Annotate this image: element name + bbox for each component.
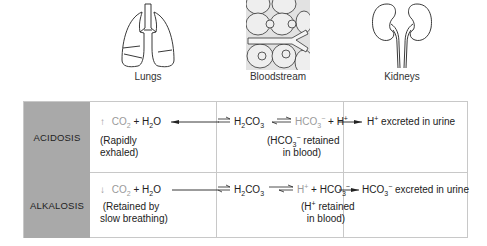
column-divider bbox=[216, 172, 217, 238]
note-text: (H bbox=[301, 201, 312, 212]
equilibrium-arrow-icon bbox=[218, 183, 232, 193]
blood-equation-acidosis: H2CO3 bbox=[234, 116, 264, 128]
note-line: in blood) bbox=[267, 147, 337, 159]
hydrogen-sup: + bbox=[304, 183, 308, 190]
column-divider bbox=[343, 102, 344, 172]
bicarbonate-text: HCO bbox=[295, 116, 317, 127]
table-row-acidosis: ACIDOSIS ↑ CO2 + H2O (Rapidly exhaled) H… bbox=[24, 102, 467, 173]
h2co3-co: CO bbox=[245, 184, 260, 195]
bicarbonate-text: + HCO bbox=[311, 184, 342, 195]
bloodstream-label: Bloodstream bbox=[240, 71, 316, 82]
equilibrium-arrow-icon bbox=[271, 115, 293, 125]
row-header-alkalosis: ALKALOSIS bbox=[24, 172, 90, 238]
lungs-illustration: Lungs bbox=[110, 0, 186, 82]
note-line: (Rapidly bbox=[100, 135, 138, 147]
note-line: (Retained by bbox=[100, 201, 162, 213]
co2-subscript: 2 bbox=[127, 190, 131, 197]
excretion-text: excreted in urine bbox=[378, 116, 455, 127]
kidneys-label: Kidneys bbox=[362, 71, 442, 82]
kidneys-illustration: Kidneys bbox=[362, 0, 442, 82]
h2co3-sub3: 3 bbox=[260, 122, 264, 129]
water-o: O bbox=[153, 184, 161, 195]
bicarbonate-sup: − bbox=[321, 115, 325, 122]
water-text: + H bbox=[133, 184, 149, 195]
h2co3-co: CO bbox=[245, 116, 260, 127]
ion-text: HCO bbox=[362, 184, 384, 195]
ion-sub: 3 bbox=[384, 190, 388, 197]
note-text: (HCO bbox=[267, 135, 293, 146]
water-text: + H bbox=[133, 116, 149, 127]
lungs-note-alkalosis: (Retained by slow breathing) bbox=[100, 201, 162, 225]
note-line: in blood) bbox=[301, 213, 351, 225]
h2co3-sub3: 3 bbox=[260, 190, 264, 197]
note-text: retained bbox=[301, 135, 340, 146]
equilibrium-arrow-icon bbox=[269, 183, 295, 193]
bloodstream-illustration: Bloodstream bbox=[240, 0, 316, 82]
note-line: slow breathing) bbox=[100, 213, 162, 225]
blood-cells-icon bbox=[246, 0, 310, 70]
note-line: exhaled) bbox=[100, 147, 138, 159]
column-divider bbox=[216, 102, 217, 172]
blood-note-acidosis: (HCO3− retained in blood) bbox=[267, 135, 337, 159]
kidneys-icon bbox=[369, 0, 435, 70]
blood-equation-alkalosis: H2CO3 bbox=[234, 184, 264, 196]
right-arrow-icon bbox=[338, 118, 364, 126]
co2-text: CO bbox=[112, 116, 127, 127]
up-arrow-icon: ↑ bbox=[100, 116, 105, 127]
down-arrow-icon: ↓ bbox=[100, 184, 105, 195]
water-o: O bbox=[153, 116, 161, 127]
equilibrium-arrow-icon bbox=[218, 115, 232, 125]
reverse-arrow-icon bbox=[169, 118, 219, 126]
excretion-text: excreted in urine bbox=[392, 184, 469, 195]
note-text: retained bbox=[316, 201, 355, 212]
blood-note-alkalosis: (H+ retained in blood) bbox=[301, 201, 351, 225]
forward-line-icon bbox=[172, 186, 218, 194]
table-row-alkalosis: ALKALOSIS ↓ CO2 + H2O (Retained by slow … bbox=[24, 172, 467, 238]
lungs-equation-acidosis: ↑ CO2 + H2O bbox=[100, 116, 161, 128]
row-header-acidosis: ACIDOSIS bbox=[24, 102, 90, 173]
right-arrow-icon bbox=[339, 186, 361, 194]
bicarbonate-sub: 3 bbox=[317, 122, 321, 129]
co2-subscript: 2 bbox=[127, 122, 131, 129]
lungs-note-acidosis: (Rapidly exhaled) bbox=[100, 135, 138, 159]
lungs-equation-alkalosis: ↓ CO2 + H2O bbox=[100, 184, 161, 196]
kidneys-outcome-acidosis: H+ excreted in urine bbox=[367, 116, 455, 128]
lungs-icon bbox=[118, 0, 178, 70]
acid-base-table: ACIDOSIS ↑ CO2 + H2O (Rapidly exhaled) H… bbox=[23, 101, 468, 238]
lungs-label: Lungs bbox=[110, 71, 186, 82]
kidneys-outcome-alkalosis: HCO3− excreted in urine bbox=[362, 184, 469, 196]
co2-text: CO bbox=[112, 184, 127, 195]
